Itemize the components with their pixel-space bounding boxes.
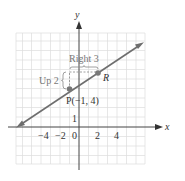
- run-brace-icon: [70, 66, 98, 70]
- x-axis-label: x: [164, 121, 170, 132]
- x-tick-neg4: −4: [38, 130, 49, 141]
- point-p-label: P(−1, 4): [66, 95, 99, 107]
- run-label: Right 3: [69, 53, 99, 64]
- point-r: [95, 70, 101, 76]
- x-axis-arrow-icon: [155, 124, 163, 130]
- point-p: [67, 86, 73, 92]
- coordinate-plane: Right 3 Up 2 R P(−1, 4) y x 1 −4 −2 0 2 …: [0, 0, 185, 181]
- rise-brace-icon: [62, 72, 67, 89]
- point-r-label: R: [102, 72, 109, 83]
- x-tick-4: 4: [114, 130, 119, 141]
- x-tick-neg2: −2: [55, 130, 66, 141]
- y-axis-label: y: [74, 9, 80, 20]
- y-axis-arrow-icon: [76, 21, 82, 29]
- x-tick-2: 2: [95, 130, 100, 141]
- x-tick-0: 0: [72, 130, 77, 141]
- rise-label: Up 2: [39, 75, 59, 86]
- y-tick-1: 1: [72, 113, 77, 124]
